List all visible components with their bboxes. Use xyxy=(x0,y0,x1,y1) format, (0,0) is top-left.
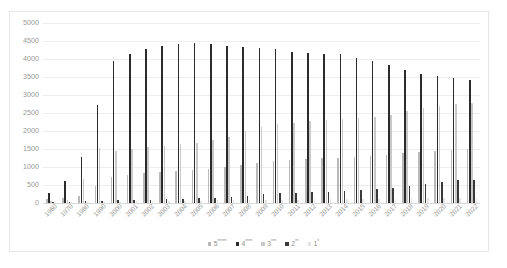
legend-item[interactable]: 4**** xyxy=(236,240,253,248)
bar-group xyxy=(270,23,286,203)
y-axis-tick-label: 4000 xyxy=(23,55,39,62)
bar xyxy=(245,131,247,203)
bar-groups xyxy=(43,23,480,203)
x-axis-tick-label: 2010 xyxy=(270,203,285,218)
legend-item[interactable]: 3*** xyxy=(261,240,276,248)
x-axis-tick-label: 2013 xyxy=(319,203,334,218)
x-axis-cell: 2014 xyxy=(334,204,350,238)
y-axis-tick-label: 4500 xyxy=(23,37,39,44)
x-axis-tick-label: 2001 xyxy=(125,203,140,218)
y-axis-tick-label: 500 xyxy=(27,181,39,188)
x-axis-tick-label: 2009 xyxy=(254,203,269,218)
x-axis-tick-label: 2019 xyxy=(416,203,431,218)
bar xyxy=(309,121,311,203)
bar xyxy=(83,179,85,203)
bar-group xyxy=(351,23,367,203)
bar-group xyxy=(124,23,140,203)
bar xyxy=(99,148,101,203)
legend-swatch xyxy=(261,242,264,245)
bar-group xyxy=(464,23,480,203)
x-axis-cell: 1960 xyxy=(43,204,59,238)
x-axis-cell: 2006 xyxy=(205,204,221,238)
x-axis-tick-label: 2007 xyxy=(222,203,237,218)
x-axis-tick-label: 2006 xyxy=(205,203,220,218)
legend-label: 4**** xyxy=(241,240,252,248)
y-axis-tick-label: 1500 xyxy=(23,145,39,152)
x-axis-cell: 2001 xyxy=(124,204,140,238)
y-axis-tick-label: 5000 xyxy=(23,19,39,26)
legend-label: 2** xyxy=(291,240,298,248)
bar-group xyxy=(205,23,221,203)
bar xyxy=(212,140,214,203)
x-axis-tick-label: 2016 xyxy=(367,203,382,218)
x-axis-cell: 2004 xyxy=(173,204,189,238)
y-axis-tick-label: 2500 xyxy=(23,109,39,116)
x-axis-cell: 2005 xyxy=(189,204,205,238)
bar-group xyxy=(75,23,91,203)
x-axis-cell: 2016 xyxy=(367,204,383,238)
bar xyxy=(326,120,328,203)
x-axis-tick-label: 2022 xyxy=(464,203,479,218)
x-axis-cell: 2022 xyxy=(464,204,480,238)
x-axis-labels: 1960197019801990200020012002200320042005… xyxy=(43,204,480,238)
bar xyxy=(131,149,133,203)
chart-legend: 5*****4****3***2**1* xyxy=(10,240,507,248)
bar xyxy=(293,123,295,203)
legend-swatch xyxy=(208,242,211,245)
bar-group xyxy=(318,23,334,203)
bar-group xyxy=(302,23,318,203)
legend-swatch xyxy=(308,242,311,245)
bar xyxy=(196,143,198,203)
bar-group xyxy=(286,23,302,203)
bar-group xyxy=(108,23,124,203)
legend-item[interactable]: 5***** xyxy=(208,240,227,248)
chart-title-strip xyxy=(0,0,507,10)
legend-swatch xyxy=(285,242,288,245)
x-axis-tick-label: 2003 xyxy=(157,203,172,218)
bar-group xyxy=(156,23,172,203)
bar-group xyxy=(189,23,205,203)
x-axis-tick-label: 2015 xyxy=(351,203,366,218)
bar-group xyxy=(383,23,399,203)
legend-label: 3*** xyxy=(267,240,276,248)
bar-group xyxy=(43,23,59,203)
bar-group xyxy=(432,23,448,203)
bar-group xyxy=(237,23,253,203)
bar xyxy=(164,146,166,203)
chart-card: 0500100015002000250030003500400045005000… xyxy=(9,11,489,252)
legend-label: 5***** xyxy=(214,240,227,248)
x-axis-cell: 1980 xyxy=(75,204,91,238)
bar xyxy=(261,127,263,203)
bar-group xyxy=(140,23,156,203)
x-axis-cell: 2002 xyxy=(140,204,156,238)
bar xyxy=(180,144,182,203)
bar xyxy=(115,151,117,203)
x-axis-cell: 2007 xyxy=(221,204,237,238)
x-axis-tick-label: 1990 xyxy=(92,203,107,218)
bar-group xyxy=(92,23,108,203)
plot-area: 0500100015002000250030003500400045005000 xyxy=(43,23,480,203)
x-axis-tick-label: 2011 xyxy=(287,203,302,218)
x-axis-tick-label: 2002 xyxy=(141,203,156,218)
bar-group xyxy=(253,23,269,203)
bar xyxy=(277,124,279,203)
legend-item[interactable]: 1* xyxy=(308,240,319,248)
bar-group xyxy=(415,23,431,203)
x-axis-tick-label: 1980 xyxy=(76,203,91,218)
x-axis-cell: 2021 xyxy=(448,204,464,238)
y-axis-tick-label: 3000 xyxy=(23,91,39,98)
x-axis-cell: 2011 xyxy=(286,204,302,238)
bar xyxy=(147,147,149,203)
x-axis-cell: 2017 xyxy=(383,204,399,238)
x-axis-cell: 2020 xyxy=(432,204,448,238)
x-axis-tick-label: 2017 xyxy=(384,203,399,218)
x-axis-tick-label: 2005 xyxy=(189,203,204,218)
bar-group xyxy=(367,23,383,203)
legend-item[interactable]: 2** xyxy=(285,240,298,248)
y-axis-tick-label: 0 xyxy=(35,199,39,206)
x-axis-cell: 1970 xyxy=(59,204,75,238)
bar-group xyxy=(448,23,464,203)
legend-swatch xyxy=(236,242,239,245)
x-axis-tick-label: 2021 xyxy=(448,203,463,218)
x-axis-tick-label: 2000 xyxy=(108,203,123,218)
